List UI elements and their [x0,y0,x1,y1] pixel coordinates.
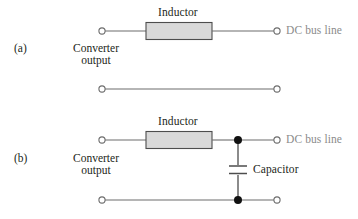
junction-dot-bottom-b [234,196,242,204]
dc-bus-label-b: DC bus line [286,133,342,145]
converter-output-label-a: Converter output [53,42,139,66]
terminal-top-left-b [99,137,105,143]
inductor-box-a [146,23,212,40]
panel-a: Inductor DC bus line (a) Converter outpu… [0,0,358,108]
junction-dot-top-b [234,136,242,144]
inductor-label-b: Inductor [158,115,198,127]
converter-label-line1-a: Converter [73,42,119,54]
circuit-figure: Inductor DC bus line (a) Converter outpu… [0,0,358,219]
terminal-top-right-b [274,137,280,143]
panel-tag-a: (a) [14,42,27,54]
capacitor-label-b: Capacitor [253,163,299,175]
terminal-bottom-left-b [99,197,105,203]
converter-label-line2-b: output [53,164,139,176]
terminal-bottom-right-a [274,86,280,92]
inductor-box-b [146,132,212,149]
inductor-label-a: Inductor [158,6,198,18]
terminal-bottom-right-b [274,197,280,203]
panel-b: Inductor DC bus line Capacitor (b) Conve… [0,108,358,219]
converter-output-label-b: Converter output [53,152,139,176]
converter-label-line2-a: output [53,54,139,66]
terminal-top-left-a [99,28,105,34]
terminal-bottom-left-a [99,86,105,92]
terminal-top-right-a [274,28,280,34]
converter-label-line1-b: Converter [73,152,119,164]
dc-bus-label-a: DC bus line [286,24,342,36]
panel-tag-b: (b) [14,152,27,164]
